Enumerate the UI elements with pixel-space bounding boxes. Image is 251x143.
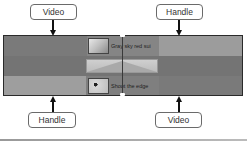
arrow-video-bottom [178, 101, 180, 112]
handle-segment [4, 76, 86, 95]
separator-line [0, 139, 247, 141]
playhead-bottom-cap[interactable] [120, 93, 125, 96]
callout-handle-bottom: Handle [28, 112, 76, 128]
callout-label: Video [168, 115, 190, 125]
playhead[interactable] [122, 35, 123, 96]
playhead-top-cap[interactable] [120, 34, 125, 37]
callout-video-top: Video [30, 4, 77, 20]
arrow-handle-bottom [52, 101, 54, 112]
video-segment [4, 36, 87, 56]
track-row-transition [4, 56, 242, 76]
callout-handle-top: Handle [156, 4, 203, 20]
clip-a[interactable]: Gray sky red sui [88, 37, 151, 55]
clip-a-thumbnail [88, 38, 109, 54]
clip-a-label: Gray sky red sui [111, 43, 151, 49]
clip-b-label: Shoot the edge [111, 83, 148, 89]
video-segment [159, 76, 242, 95]
track-row-top: Gray sky red sui [4, 36, 242, 56]
callout-label: Handle [39, 115, 66, 125]
callout-video-bottom: Video [155, 112, 202, 128]
callout-label: Video [43, 7, 65, 17]
clip-b[interactable]: Shoot the edge [88, 77, 148, 95]
handle-segment [159, 36, 242, 56]
clip-b-thumbnail [88, 78, 109, 94]
timeline: Gray sky red sui Shoot the edge [3, 35, 243, 96]
callout-label: Handle [166, 7, 193, 17]
